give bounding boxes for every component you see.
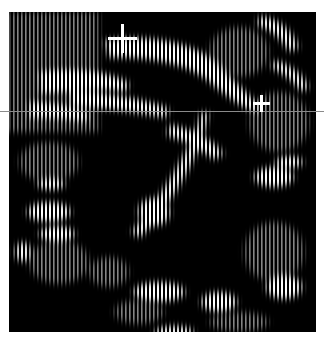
scan-area [9, 12, 316, 332]
reference-line [0, 111, 324, 112]
ultrasound-image [0, 0, 324, 340]
caliper-marker-1 [108, 24, 137, 53]
speckle-texture [9, 12, 316, 332]
caliper-marker-2 [253, 95, 270, 112]
